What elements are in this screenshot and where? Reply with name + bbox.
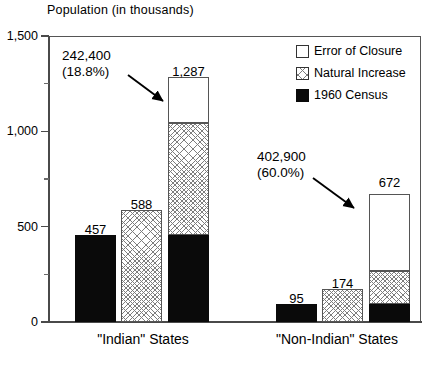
legend-label-1960-census: 1960 Census	[314, 88, 388, 102]
legend-label-error-of-closure: Error of Closure	[314, 44, 402, 58]
bar-value-non-indian-stacked: 672	[379, 175, 401, 190]
bar-non-indian-census	[276, 304, 317, 322]
bar-indian-stacked	[168, 77, 209, 322]
legend-item-natural-increase: Natural Increase	[296, 63, 406, 83]
segment-non-indian-error-of-closure	[369, 194, 410, 271]
annotation-non-indian-percent: (60.0%)	[257, 165, 306, 181]
y-tick-1500	[41, 35, 49, 37]
segment-indian-census	[168, 235, 209, 322]
y-tick-500	[41, 226, 49, 228]
x-category-label-non-indian: "Non-Indian" States	[276, 331, 398, 347]
bar-non-indian-stacked	[369, 194, 410, 322]
segment-non-indian-natural-increase	[369, 271, 410, 304]
population-bar-chart: Population (in thousands) 05001,0001,500…	[0, 0, 434, 367]
bar-value-indian-stacked: 1,287	[172, 64, 205, 79]
annotation-indian-percent: (18.8%)	[62, 64, 111, 80]
annotation-non-indian: 402,900 (60.0%)	[257, 149, 306, 182]
annotation-non-indian-arrow	[310, 175, 366, 215]
legend-label-natural-increase: Natural Increase	[314, 66, 406, 80]
y-tick-label-1500: 1,500	[7, 29, 38, 43]
chart-title: Population (in thousands)	[47, 3, 194, 17]
bar-value-non-indian-natural-increase: 174	[332, 276, 354, 291]
annotation-indian-arrow	[125, 72, 175, 108]
annotation-indian: 242,400 (18.8%)	[62, 48, 111, 81]
y-minor-tick-1250	[44, 83, 49, 85]
y-tick-1000	[41, 131, 49, 133]
y-minor-tick-250	[44, 274, 49, 276]
legend-item-1960-census: 1960 Census	[296, 85, 406, 105]
y-tick-label-0: 0	[31, 315, 38, 329]
segment-non-indian-census	[369, 304, 410, 322]
bar-value-non-indian-census: 95	[289, 291, 303, 306]
bar-value-indian-census: 457	[85, 222, 107, 237]
legend: Error of Closure Natural Increase 1960 C…	[296, 41, 406, 107]
y-minor-tick-750	[44, 178, 49, 180]
annotation-indian-value: 242,400	[62, 48, 111, 64]
bar-non-indian-natural-increase	[322, 289, 363, 322]
y-tick-label-1000: 1,000	[7, 124, 38, 138]
legend-swatch-natural-increase-icon	[296, 67, 309, 80]
bar-indian-census	[75, 235, 116, 322]
legend-swatch-1960-census-icon	[296, 89, 309, 102]
segment-indian-natural-increase	[168, 123, 209, 235]
bar-value-indian-natural-increase: 588	[131, 197, 153, 212]
x-category-label-indian: "Indian" States	[97, 331, 189, 347]
y-tick-label-500: 500	[17, 220, 38, 234]
legend-item-error-of-closure: Error of Closure	[296, 41, 406, 61]
bar-indian-natural-increase	[121, 210, 162, 322]
legend-swatch-error-of-closure-icon	[296, 45, 309, 58]
annotation-non-indian-value: 402,900	[257, 149, 306, 165]
